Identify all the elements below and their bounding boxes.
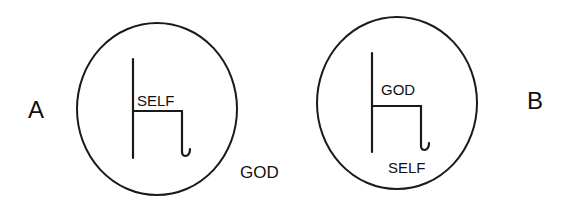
- god-label-a: GOD: [240, 164, 279, 181]
- self-label-b: SELF: [388, 160, 426, 175]
- panel-label-a: A: [28, 98, 44, 122]
- self-label-a: SELF: [137, 93, 175, 108]
- diagram-drawing: [0, 0, 570, 204]
- panel-label-b: B: [527, 89, 543, 113]
- panel-a: [77, 23, 237, 195]
- diagram-canvas: A SELF GOD GOD SELF B: [0, 0, 570, 204]
- god-label-b: GOD: [381, 82, 415, 97]
- circle-a: [77, 23, 237, 195]
- chair-b-icon: [372, 53, 429, 152]
